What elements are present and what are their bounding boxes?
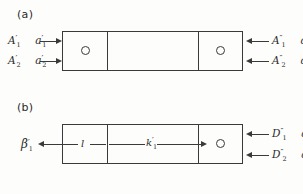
- panel-a-label-left-top: A′1 a′1: [8, 34, 47, 46]
- panel-b-inner-label-length: l: [81, 138, 84, 149]
- symbol-A2-dprime: A″2: [272, 54, 287, 66]
- panel-b-label-right-top: D″1 a″1: [272, 127, 303, 139]
- panel-b-divider-left: [107, 124, 108, 164]
- panel-a-circle-right: [216, 46, 225, 55]
- panel-a-arrow-left-top-head: [56, 38, 62, 44]
- panel-b-inner-label-wavenumber: k′1: [146, 137, 158, 148]
- symbol-a2-prime: a′2: [35, 54, 47, 66]
- symbol-k1-prime: k′1: [146, 137, 158, 148]
- panel-b-circle-right: [216, 139, 225, 148]
- panel-a-arrow-right-top-line: [252, 41, 269, 42]
- panel-a-arrow-right-bottom-head: [246, 58, 252, 64]
- symbol-D1-dprime: D″1: [272, 127, 288, 139]
- panel-a-label-left-bottom: A′2 a′2: [8, 54, 47, 66]
- panel-label-b: (b): [17, 101, 33, 114]
- symbol-A1-dprime: A″1: [272, 34, 287, 46]
- panel-b-arrow-right-top-head: [246, 131, 252, 137]
- symbol-A1-prime: A′1: [8, 34, 22, 46]
- panel-a-arrow-right-top-head: [246, 38, 252, 44]
- symbol-a1-dprime: a″1: [300, 34, 303, 46]
- panel-b-arrow-right-bottom-line: [252, 155, 269, 156]
- panel-b-inner-line-left-a: [63, 144, 78, 145]
- panel-a-circle-left: [81, 46, 90, 55]
- panel-b-inner-line-mid-a: [109, 144, 145, 145]
- figure-canvas: (a) A′1 a′1 A′2 a′2 A″1 a″1 A″2 a″2: [0, 0, 303, 194]
- panel-a-arrow-right-bottom-line: [252, 61, 269, 62]
- panel-b-inner-line-mid-b: [157, 144, 202, 145]
- panel-b-arrow-left-out-line: [44, 144, 62, 145]
- panel-b-label-right-bottom: D″2 a″2: [272, 148, 303, 160]
- symbol-a1-dprime-b: a″1: [301, 127, 303, 139]
- symbol-D2-dprime: D″2: [272, 148, 288, 160]
- panel-b-arrow-right-bottom-head: [246, 152, 252, 158]
- panel-b-inner-arrow-head: [201, 141, 207, 147]
- panel-b-inner-line-left-b: [90, 144, 106, 145]
- panel-b-label-left: β′1: [21, 137, 34, 151]
- symbol-beta1-prime: β′1: [21, 137, 34, 151]
- symbol-a2-dprime: a″2: [300, 54, 303, 66]
- panel-a-label-right-top: A″1 a″1: [272, 34, 303, 46]
- panel-a-label-right-bottom: A″2 a″2: [272, 54, 303, 66]
- panel-label-a: (a): [17, 8, 33, 21]
- symbol-a2-dprime-b: a″2: [301, 148, 303, 160]
- symbol-A2-prime: A′2: [8, 54, 22, 66]
- panel-a-arrow-left-bottom-head: [56, 58, 62, 64]
- panel-a-divider-right: [198, 31, 199, 71]
- panel-a-divider-left: [107, 31, 108, 71]
- symbol-length-l: l: [81, 138, 84, 149]
- panel-b-arrow-right-top-line: [252, 134, 269, 135]
- symbol-a1-prime: a′1: [35, 34, 47, 46]
- panel-b-arrow-left-out-head: [38, 141, 44, 147]
